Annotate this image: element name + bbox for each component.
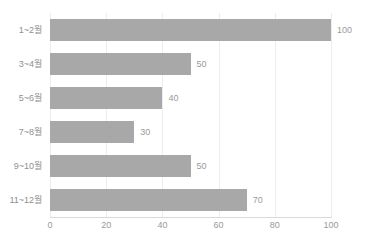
x-axis-tick-labels: 020406080100 [50, 220, 332, 238]
x-tick-label: 100 [323, 220, 338, 230]
category-label: 1~2월 [19, 13, 42, 47]
x-tick-label: 20 [101, 220, 111, 230]
gridline [331, 13, 332, 217]
bar[interactable] [50, 53, 191, 75]
bar-value-label: 50 [191, 155, 207, 177]
x-axis-line [50, 217, 332, 218]
x-tick-label: 80 [270, 220, 280, 230]
x-tick-label: 0 [47, 220, 52, 230]
bar-row[interactable]: 50 [50, 149, 331, 183]
bar[interactable] [50, 155, 191, 177]
category-label: 5~6월 [19, 81, 42, 115]
bar-row[interactable]: 30 [50, 115, 331, 149]
y-axis-category-labels: 1~2월3~4월5~6월7~8월9~10월11~12월 [0, 13, 46, 217]
bar-value-label: 40 [162, 87, 178, 109]
category-label: 7~8월 [19, 115, 42, 149]
x-tick-label: 60 [214, 220, 224, 230]
bar[interactable] [50, 19, 331, 41]
bar-value-label: 70 [247, 189, 263, 211]
bar-value-label: 50 [191, 53, 207, 75]
bar[interactable] [50, 121, 134, 143]
category-label: 9~10월 [14, 149, 42, 183]
plot-area: 1005040305070 [50, 13, 331, 217]
bar-row[interactable]: 100 [50, 13, 331, 47]
x-tick-label: 40 [157, 220, 167, 230]
bar-row[interactable]: 40 [50, 81, 331, 115]
bar-chart: 1005040305070 1~2월3~4월5~6월7~8월9~10월11~12… [0, 0, 366, 245]
category-label: 11~12월 [9, 183, 42, 217]
bar-value-label: 30 [134, 121, 150, 143]
bar[interactable] [50, 189, 247, 211]
bar-row[interactable]: 70 [50, 183, 331, 217]
bar-row[interactable]: 50 [50, 47, 331, 81]
bar[interactable] [50, 87, 162, 109]
category-label: 3~4월 [19, 47, 42, 81]
bar-value-label: 100 [331, 19, 352, 41]
bars-layer: 1005040305070 [50, 13, 331, 217]
